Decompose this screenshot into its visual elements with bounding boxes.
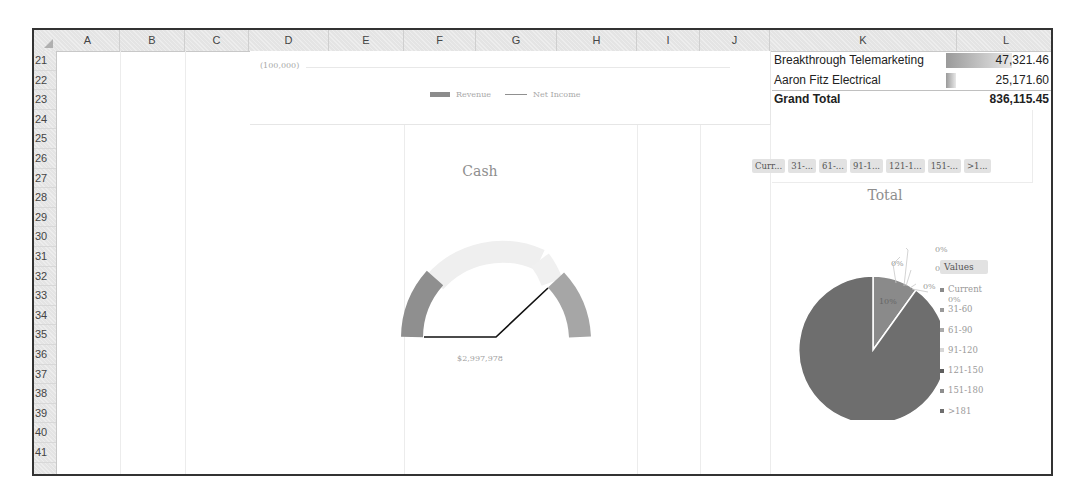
chart-legend: Revenue Net Income [430,90,580,99]
leader-line [906,270,911,286]
column-header-j[interactable]: J [700,30,770,51]
gauge-mid-band-end [540,260,552,282]
legend-label: 61-90 [948,325,973,335]
legend-swatch [940,288,944,292]
filter-button-91-120[interactable]: 91-1... [850,159,883,173]
grand-total-value: 836,115.45 [990,90,1049,110]
legend-item-31-60[interactable]: 31-60 [940,299,988,319]
filter-button-61-90[interactable]: 61-... [819,159,847,173]
pivot-row-value: 25,171.60 [996,71,1049,91]
legend-item-current[interactable]: Current [940,279,988,299]
legend-item-91-120[interactable]: 91-120 [940,340,988,360]
revenue-legend-label: Revenue [456,90,491,99]
row-header[interactable]: 37 [34,365,56,385]
column-header-h[interactable]: H [557,30,637,51]
cash-gauge-chart[interactable] [380,220,610,350]
legend-label: 91-120 [948,345,978,355]
gridline [185,51,186,474]
select-all-corner[interactable] [34,30,56,51]
row-header[interactable]: 24 [34,110,56,130]
grand-total-row[interactable]: Grand Total 836,115.45 [772,90,1053,110]
row-header[interactable]: 34 [34,306,56,326]
column-header-a[interactable]: A [56,30,120,51]
gauge-value: $2,997,978 [430,354,530,363]
row-header[interactable]: 30 [34,227,56,247]
legend-swatch [940,389,944,393]
aging-pie-chart[interactable] [780,210,940,420]
row-header[interactable]: 22 [34,71,56,91]
column-header-k[interactable]: K [770,30,957,51]
row-header[interactable]: 36 [34,345,56,365]
column-header-g[interactable]: G [476,30,557,51]
pivot-row-label: Breakthrough Telemarketing [774,51,924,71]
gridline [120,51,121,474]
filter-button-121-150[interactable]: 121-1... [886,159,925,173]
row-header[interactable]: 32 [34,267,56,287]
row-header[interactable]: 26 [34,149,56,169]
filter-button-current[interactable]: Curr... [752,159,785,173]
legend-label: 151-180 [948,385,983,395]
pivot-row[interactable]: Breakthrough Telemarketing 47,321.46 [772,51,1053,71]
y-axis-label: (100,000) [260,61,299,70]
pie-label-current: 10% [879,297,897,306]
column-header-l[interactable]: L [957,30,1053,51]
legend-swatch [940,409,944,413]
gauge-mid-band [435,252,540,282]
row-header[interactable]: 23 [34,90,56,110]
revenue-net-income-chart[interactable]: (100,000) Revenue Net Income [250,51,771,125]
pivot-row-value: 47,321.46 [996,51,1049,71]
legend-item-over-181[interactable]: >181 [940,401,988,421]
pivot-row[interactable]: Aaron Fitz Electrical 25,171.60 [772,71,1053,91]
row-header[interactable]: 27 [34,169,56,189]
pie-legend: Values Current 31-60 61-90 91-120 121-15… [940,260,988,421]
row-header[interactable]: 40 [34,423,56,443]
pie-label-zero: 0% [891,259,904,268]
gauge-left-band [412,278,435,337]
pie-label-zero: 0% [923,282,936,291]
row-header[interactable]: 35 [34,325,56,345]
gauge-title: Cash [435,163,525,179]
row-header[interactable]: 29 [34,208,56,228]
legend-label: Current [948,284,982,294]
legend-item-121-150[interactable]: 121-150 [940,360,988,380]
data-bar [946,73,956,88]
legend-item-61-90[interactable]: 61-90 [940,320,988,340]
chart-gridline [306,67,730,68]
grand-total-label: Grand Total [774,90,840,110]
row-header[interactable]: 31 [34,247,56,267]
pie-title: Total [845,187,925,203]
net-income-legend-swatch [505,94,527,95]
legend-swatch [940,308,944,312]
column-header-i[interactable]: I [637,30,700,51]
legend-swatch [940,369,944,373]
pivot-table: Breakthrough Telemarketing 47,321.46 Aar… [772,51,1053,110]
legend-label: >181 [948,406,971,416]
column-header-d[interactable]: D [249,30,329,51]
pivot-row-label: Aaron Fitz Electrical [774,71,881,91]
legend-header[interactable]: Values [940,260,988,274]
legend-swatch [940,348,944,352]
row-header[interactable]: 21 [34,51,56,71]
gauge-right-band [556,280,580,337]
row-header[interactable]: 39 [34,404,56,424]
column-header-f[interactable]: F [404,30,476,51]
column-header-e[interactable]: E [329,30,404,51]
legend-label: 31-60 [948,304,973,314]
row-header[interactable]: 41 [34,443,56,463]
gauge-needle [424,288,548,337]
legend-label: 121-150 [948,365,983,375]
filter-button-151-180[interactable]: 151-... [928,159,961,173]
legend-swatch [940,328,944,332]
pie-label-zero: 0% [935,245,948,254]
filter-button-31-60[interactable]: 31-... [788,159,816,173]
legend-item-151-180[interactable]: 151-180 [940,380,988,400]
row-header[interactable]: 25 [34,129,56,149]
column-header-c[interactable]: C [185,30,249,51]
filter-button-over-181[interactable]: >1... [964,159,991,173]
row-header[interactable]: 38 [34,384,56,404]
column-header-bar: A B C D E F G H I J K L [34,30,1051,52]
pie-slice-over-181[interactable] [799,276,940,420]
row-header[interactable]: 33 [34,286,56,306]
row-header[interactable]: 28 [34,188,56,208]
column-header-b[interactable]: B [120,30,185,51]
